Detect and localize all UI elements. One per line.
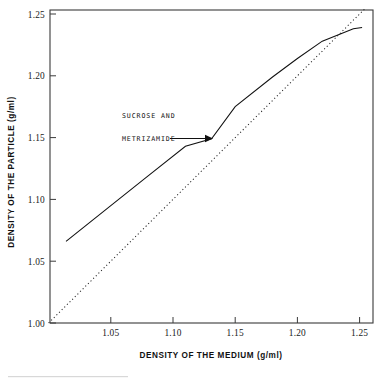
y-tick-label: 1.10 (28, 195, 45, 205)
caption-remnant (8, 376, 128, 377)
annotation-line-2: METRIZAMIDE (122, 135, 176, 143)
y-tick-label: 1.25 (28, 10, 45, 20)
annotation-line-1: SUCROSE AND (122, 112, 176, 120)
y-tick-label: 1.05 (28, 257, 45, 267)
x-tick-label: 1.10 (164, 328, 181, 338)
x-tick-label: 1.05 (102, 328, 119, 338)
x-axis-ticks (111, 317, 360, 323)
identity-reference-line (49, 8, 366, 323)
x-tick-label: 1.15 (227, 328, 244, 338)
plot-frame (50, 10, 373, 323)
y-axis-ticks (50, 14, 56, 323)
annotation-group: SUCROSE AND METRIZAMIDE (122, 112, 213, 143)
x-axis-title: DENSITY OF THE MEDIUM (g/ml) (139, 351, 282, 360)
y-tick-label-group: 1.00 1.05 1.10 1.15 1.20 1.25 (28, 10, 45, 329)
y-tick-label: 1.15 (28, 133, 45, 143)
x-tick-label-group: 1.05 1.10 1.15 1.20 1.25 (102, 328, 368, 338)
y-tick-label: 1.20 (28, 71, 45, 81)
density-plot: 1.05 1.10 1.15 1.20 1.25 1.00 1.05 1.10 … (0, 0, 385, 379)
x-tick-label: 1.20 (289, 328, 306, 338)
x-tick-label: 1.25 (351, 328, 368, 338)
y-tick-label: 1.00 (28, 319, 45, 329)
figure-container: 1.05 1.10 1.15 1.20 1.25 1.00 1.05 1.10 … (0, 0, 385, 379)
annotation-arrow-head (205, 135, 213, 142)
sucrose-metrizamide-curve (66, 28, 362, 242)
y-axis-title: DENSITY OF THE PARTICLE (g/ml) (7, 96, 16, 247)
